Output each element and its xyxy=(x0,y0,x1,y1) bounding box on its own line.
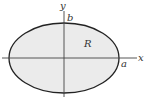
y-axis-label: y xyxy=(59,0,66,11)
b-label: b xyxy=(67,12,73,23)
a-label: a xyxy=(121,58,127,69)
ellipse-diagram: x y b a R xyxy=(0,0,144,98)
x-axis-label: x xyxy=(138,52,144,63)
region-R-label: R xyxy=(83,38,92,49)
